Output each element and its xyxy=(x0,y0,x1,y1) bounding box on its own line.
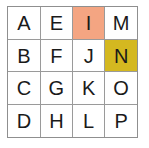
grid-cell-b[interactable]: B xyxy=(8,39,40,72)
letter-grid: AEIMBFJNCGKODHLP xyxy=(8,7,137,137)
grid-cell-p[interactable]: P xyxy=(105,105,137,137)
grid-cell-f[interactable]: F xyxy=(40,39,72,72)
grid-cell-l[interactable]: L xyxy=(73,105,105,137)
grid-cell-d[interactable]: D xyxy=(8,105,40,137)
grid-cell-k[interactable]: K xyxy=(73,72,105,105)
letter-grid-body: AEIMBFJNCGKODHLP xyxy=(8,7,137,137)
grid-row: CGKO xyxy=(8,72,137,105)
grid-cell-m[interactable]: M xyxy=(105,7,137,39)
grid-row: DHLP xyxy=(8,105,137,137)
grid-cell-c[interactable]: C xyxy=(8,72,40,105)
grid-cell-h[interactable]: H xyxy=(40,105,72,137)
grid-cell-o[interactable]: O xyxy=(105,72,137,105)
grid-cell-n[interactable]: N xyxy=(105,39,137,72)
grid-cell-g[interactable]: G xyxy=(40,72,72,105)
grid-cell-e[interactable]: E xyxy=(40,7,72,39)
letter-grid-container: AEIMBFJNCGKODHLP xyxy=(7,6,138,138)
grid-cell-j[interactable]: J xyxy=(73,39,105,72)
grid-row: AEIM xyxy=(8,7,137,39)
grid-cell-a[interactable]: A xyxy=(8,7,40,39)
grid-cell-i[interactable]: I xyxy=(73,7,105,39)
grid-row: BFJN xyxy=(8,39,137,72)
